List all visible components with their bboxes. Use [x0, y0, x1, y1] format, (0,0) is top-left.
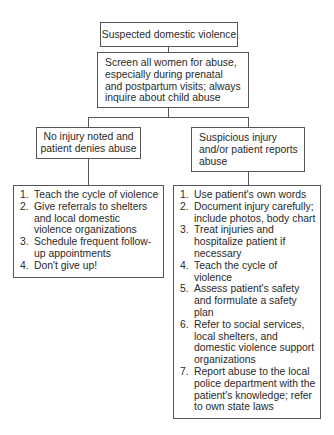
action-item: 2.Give referrals to shelters and local d… — [20, 201, 159, 236]
action-item: 4.Don't give up! — [20, 260, 159, 272]
condition-left-line-1: No injury noted and — [43, 131, 133, 143]
screen-line-4: inquire about child abuse — [105, 92, 242, 104]
connector-to-left-condition — [88, 117, 89, 127]
action-item: 7.Report abuse to the local police depar… — [180, 366, 316, 413]
action-item: 3.Schedule frequent follow-up appointmen… — [20, 236, 159, 260]
action-item: 2.Document injury carefully; include pho… — [180, 201, 316, 225]
screen-node: Screen all women for abuse, especially d… — [97, 52, 249, 108]
actions-left-list: 1.Teach the cycle of violence 2.Give ref… — [20, 189, 159, 272]
condition-right-line-3: abuse — [199, 156, 298, 168]
action-item: 4.Teach the cycle of violence — [180, 260, 316, 284]
condition-left-line-2: patient denies abuse — [41, 143, 137, 155]
root-node-label: Suspected domestic violence — [102, 29, 237, 41]
action-item: 1.Teach the cycle of violence — [20, 189, 159, 201]
condition-node-no-injury: No injury noted and patient denies abuse — [36, 127, 141, 159]
connector-right-condition-to-actions — [248, 172, 249, 185]
connector-left-condition-to-actions — [88, 159, 89, 185]
action-item: 5.Assess patient's safety and formulate … — [180, 283, 316, 318]
action-item: 1.Use patient's own words — [180, 189, 316, 201]
connector-branch-horizontal — [88, 117, 249, 118]
condition-right-line-1: Suspicious injury — [199, 132, 298, 144]
action-item: 3.Treat injuries and hospitalize patient… — [180, 224, 316, 259]
action-item: 6.Refer to social services, local shelte… — [180, 319, 316, 366]
condition-node-suspicious-injury: Suspicious injury and/or patient reports… — [191, 127, 305, 172]
actions-node-suspicious-injury: 1.Use patient's own words 2.Document inj… — [173, 185, 321, 419]
screen-line-3: and postpartum visits; always — [105, 81, 242, 93]
screen-line-1: Screen all women for abuse, — [105, 57, 242, 69]
actions-node-no-injury: 1.Teach the cycle of violence 2.Give ref… — [13, 185, 164, 278]
root-node-suspected-domestic-violence: Suspected domestic violence — [100, 22, 238, 47]
screen-line-2: especially during prenatal — [105, 69, 242, 81]
condition-right-line-2: and/or patient reports — [199, 144, 298, 156]
actions-right-list: 1.Use patient's own words 2.Document inj… — [180, 189, 316, 413]
